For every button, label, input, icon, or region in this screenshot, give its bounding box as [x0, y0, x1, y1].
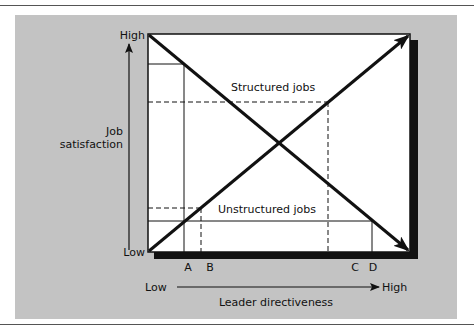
plot-shadow-bottom — [154, 252, 418, 259]
y-axis-low-label: Low — [123, 246, 145, 259]
plot-shadow-right — [410, 40, 418, 259]
x-axis-high-label: High — [382, 281, 407, 294]
y-axis-high-label: High — [120, 29, 145, 42]
point-c-label: C — [351, 261, 359, 274]
point-b-label: B — [206, 261, 214, 274]
point-a-label: A — [184, 261, 192, 274]
path-goal-diagram: Structured jobs Unstructured jobs High L… — [0, 0, 474, 336]
x-axis-low-label: Low — [145, 281, 167, 294]
point-d-label: D — [369, 261, 377, 274]
x-axis-title: Leader directiveness — [219, 296, 333, 309]
y-axis-title-line1: Job — [105, 125, 123, 138]
unstructured-jobs-label: Unstructured jobs — [218, 203, 316, 216]
structured-jobs-label: Structured jobs — [231, 81, 315, 94]
y-axis-title-line2: satisfaction — [60, 138, 123, 151]
